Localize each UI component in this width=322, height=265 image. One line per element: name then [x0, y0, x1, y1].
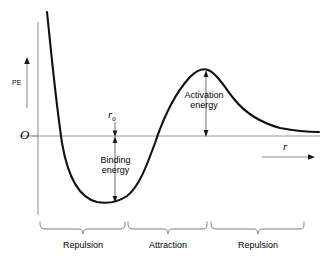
- activation-energy-label-line1: Activation: [172, 90, 236, 100]
- region-label-repulsion-left: Repulsion: [40, 240, 126, 250]
- region-label-attraction: Attraction: [128, 240, 208, 250]
- region-label-repulsion-right: Repulsion: [211, 240, 305, 250]
- brace-repulsion-right: [211, 222, 304, 234]
- potential-energy-figure: PE O r0 r Binding energy Activation ener…: [0, 0, 322, 265]
- activation-energy-label: Activation energy: [172, 90, 236, 111]
- pe-direction-arrow: [24, 57, 30, 108]
- binding-energy-label-line1: Binding: [87, 155, 144, 165]
- equilibrium-distance-subscript: 0: [112, 115, 116, 123]
- binding-energy-label-line2: energy: [87, 165, 144, 175]
- pe-axis-label: PE: [12, 79, 22, 87]
- origin-label: O: [20, 128, 29, 143]
- r-axis-label: r: [283, 140, 287, 153]
- r0-marker: [113, 122, 118, 137]
- brace-repulsion-left: [40, 222, 125, 234]
- r-direction-arrow: [262, 154, 315, 160]
- binding-energy-label: Binding energy: [87, 155, 144, 176]
- activation-energy-label-line2: energy: [172, 100, 236, 110]
- brace-attraction: [128, 222, 207, 234]
- figure-canvas: [0, 0, 322, 265]
- equilibrium-distance-label: r0: [108, 108, 116, 123]
